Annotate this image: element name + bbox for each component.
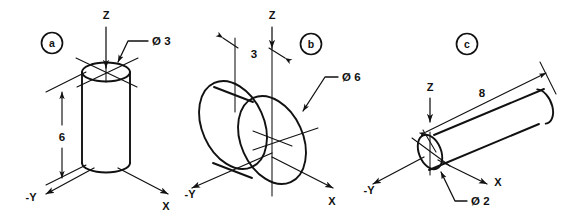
figure-b-z-axis-label: Z — [269, 9, 276, 21]
figure-a-z-axis-label: Z — [103, 9, 110, 21]
figure-c-diameter-callout: Ø 2 — [441, 172, 490, 207]
figure-a-tag: a — [42, 33, 63, 54]
technical-drawing-canvas: a Z — [0, 0, 573, 220]
figure-b-z-axis: Z — [269, 9, 276, 196]
figure-c-length-dimension: 8 — [423, 62, 556, 152]
figure-a-height-dimension: 6 — [46, 72, 86, 185]
figure-b-negative-y-axis-label: -Y — [185, 188, 197, 200]
figure-a-x-axis: X — [118, 168, 170, 212]
figure-c-negative-y-axis: -Y — [364, 157, 425, 196]
figure-a-diameter-callout: Ø 3 — [118, 35, 171, 62]
figure-a-negative-y-axis-label: -Y — [26, 191, 38, 203]
figure-c-tag: c — [457, 34, 478, 55]
figure-b-diameter-callout: Ø 6 — [303, 71, 361, 111]
figure-c-negative-y-axis-label: -Y — [364, 184, 376, 196]
figure-c-length-dimension-label: 8 — [479, 87, 486, 99]
figure-a-diameter-label: Ø 3 — [152, 35, 171, 47]
figure-a-tag-label: a — [49, 37, 55, 49]
figure-c-diameter-label: Ø 2 — [471, 195, 490, 207]
figure-a-height-dimension-label: 6 — [59, 131, 65, 143]
figure-b-tag: b — [301, 34, 322, 55]
figure-b-x-axis-label: X — [328, 195, 336, 207]
figure-c: c 8 Z — [364, 34, 558, 208]
figure-b-diameter-label: Ø 6 — [342, 71, 361, 83]
figure-c-z-axis: Z — [427, 81, 434, 122]
figure-b-center-lines — [253, 128, 318, 150]
figure-c-x-axis-label: X — [494, 176, 502, 188]
figure-a-negative-y-axis: -Y — [26, 168, 95, 203]
figure-c-tag-label: c — [464, 38, 470, 50]
drawing-sheet: a Z — [0, 0, 573, 220]
figure-c-x-axis: X — [438, 160, 502, 188]
figure-c-rod — [413, 86, 558, 172]
figure-c-z-axis-label: Z — [427, 81, 434, 93]
figure-b-negative-y-axis: -Y — [185, 153, 273, 200]
figure-a-x-axis-label: X — [162, 200, 170, 212]
figure-a: a Z — [26, 9, 171, 212]
figure-b-thickness-dimension-label: 3 — [251, 48, 257, 60]
figure-b-tag-label: b — [308, 38, 314, 50]
figure-b-disc — [186, 70, 319, 194]
figure-a-z-axis: Z — [103, 9, 110, 68]
figure-b: b Z 3 — [185, 9, 361, 207]
